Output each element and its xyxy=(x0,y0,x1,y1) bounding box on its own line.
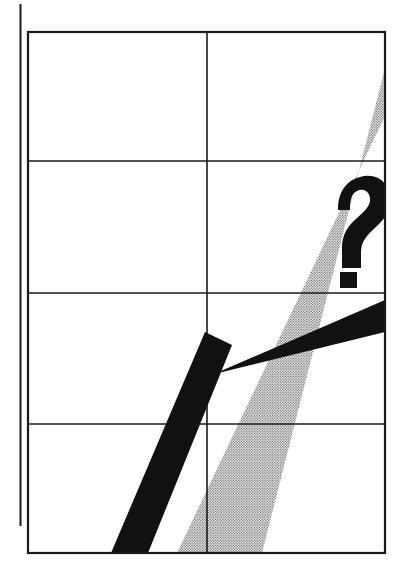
illustration-canvas xyxy=(0,0,403,573)
question-mark-dot xyxy=(340,272,357,288)
diagram-svg xyxy=(0,0,403,573)
